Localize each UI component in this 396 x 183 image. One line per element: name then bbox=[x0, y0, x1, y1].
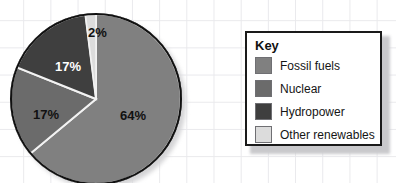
legend-item-other-renewables[interactable]: Other renewables bbox=[255, 123, 374, 146]
cutoff-title-remnant bbox=[142, 0, 262, 3]
legend-label-nuclear: Nuclear bbox=[280, 82, 321, 96]
pie-label-nuclear: 17% bbox=[33, 107, 59, 122]
legend-swatch-nuclear bbox=[255, 80, 272, 97]
pie-chart: 64% 17% 17% 2% bbox=[8, 11, 188, 183]
legend-swatch-other-renewables bbox=[255, 126, 272, 143]
legend-title: Key bbox=[255, 38, 374, 53]
pie-label-fossil-fuels: 64% bbox=[120, 108, 146, 123]
legend-label-other-renewables: Other renewables bbox=[280, 128, 375, 142]
pie-label-hydropower: 17% bbox=[55, 59, 81, 74]
legend-key-box: Key Fossil fuels Nuclear Hydropower Othe… bbox=[245, 31, 382, 146]
legend-item-fossil-fuels[interactable]: Fossil fuels bbox=[255, 54, 374, 77]
legend-swatch-fossil-fuels bbox=[255, 57, 272, 74]
legend-swatch-hydropower bbox=[255, 103, 272, 120]
legend-item-hydropower[interactable]: Hydropower bbox=[255, 100, 374, 123]
pie-chart-figure: 64% 17% 17% 2% Key Fossil fuels Nuclear … bbox=[0, 0, 396, 183]
pie-label-other-renewables: 2% bbox=[88, 25, 107, 40]
legend-label-fossil-fuels: Fossil fuels bbox=[280, 59, 340, 73]
legend-item-nuclear[interactable]: Nuclear bbox=[255, 77, 374, 100]
legend-label-hydropower: Hydropower bbox=[280, 105, 345, 119]
